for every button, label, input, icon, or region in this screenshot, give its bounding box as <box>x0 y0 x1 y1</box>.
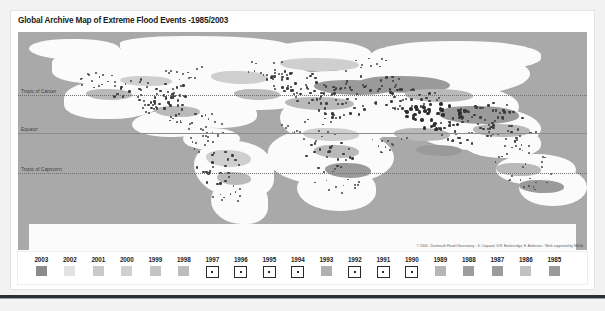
flood-event-dot <box>327 151 329 153</box>
flood-event-dot <box>224 165 226 167</box>
flood-event-dot <box>213 152 215 154</box>
legend-point-marker-icon <box>297 271 299 273</box>
flood-event-dot <box>341 103 343 105</box>
legend-swatch <box>348 266 361 278</box>
flood-event-dot <box>461 121 463 123</box>
flood-event-dot <box>521 117 523 119</box>
legend-item-1993[interactable]: 1993 <box>312 255 341 276</box>
flood-event-dot <box>363 108 365 110</box>
flood-event-dot <box>224 180 226 182</box>
flood-event-dot <box>311 99 313 101</box>
legend-item-1994[interactable]: 1994 <box>284 255 313 278</box>
legend-year-label: 2000 <box>120 255 134 264</box>
flood-event-dot <box>473 114 475 116</box>
flood-event-dot <box>466 139 468 141</box>
flood-event-dot <box>387 140 389 142</box>
flood-event-dot <box>237 200 239 202</box>
legend-item-2003[interactable]: 2003 <box>27 255 56 276</box>
world-flood-map[interactable]: Tropic of CancerEquatorTropic of Caprico… <box>18 32 587 250</box>
latitude-label-tropic-of-cancer: Tropic of Cancer <box>21 89 56 94</box>
legend-item-1990[interactable]: 1990 <box>398 255 427 278</box>
flood-event-dot <box>211 161 213 163</box>
flood-event-dot <box>201 66 203 68</box>
flood-event-dot <box>390 100 392 102</box>
flood-event-dot <box>308 102 310 104</box>
legend-year-label: 1995 <box>262 255 276 264</box>
legend-year-label: 1996 <box>234 255 248 264</box>
flood-event-dot <box>158 103 160 105</box>
legend-swatch <box>206 266 219 278</box>
legend-item-1991[interactable]: 1991 <box>369 255 398 278</box>
legend-item-1987[interactable]: 1987 <box>483 255 512 276</box>
flood-event-dot <box>212 141 214 143</box>
flood-event-dot <box>420 98 422 100</box>
legend-item-1992[interactable]: 1992 <box>341 255 370 278</box>
flood-event-dot <box>436 112 439 115</box>
flood-event-dot <box>430 118 433 121</box>
flood-event-dot <box>155 88 157 90</box>
flood-event-dot <box>334 168 336 170</box>
latitude-label-equator: Equator <box>21 127 38 132</box>
map-panel: Global Archive Map of Extreme Flood Even… <box>11 11 594 289</box>
flood-event-dot <box>239 188 241 190</box>
flood-event-dot <box>175 114 177 116</box>
legend-item-1988[interactable]: 1988 <box>455 255 484 276</box>
flood-event-dot <box>479 116 481 118</box>
legend-swatch <box>463 266 474 276</box>
legend-item-1995[interactable]: 1995 <box>255 255 284 278</box>
flood-event-dot <box>80 78 82 80</box>
flood-event-dot <box>138 99 140 101</box>
legend-year-label: 2003 <box>34 255 48 264</box>
flood-event-dot <box>458 137 460 139</box>
flood-event-dot <box>449 124 451 126</box>
flood-event-dot <box>150 107 152 109</box>
flood-event-dot <box>217 135 219 137</box>
flood-event-dot <box>325 102 327 104</box>
flood-event-dot <box>430 125 433 128</box>
flood-event-dot <box>234 159 236 161</box>
flood-event-dot <box>227 158 229 160</box>
flood-event-dot <box>303 138 305 140</box>
legend-item-1989[interactable]: 1989 <box>426 255 455 276</box>
flood-event-dot <box>410 98 412 100</box>
flood-event-dot <box>405 110 408 113</box>
flood-event-dot <box>290 89 292 91</box>
flood-event-dot <box>102 74 104 76</box>
legend-swatch <box>405 266 418 278</box>
flood-event-dot <box>286 77 288 79</box>
legend-item-1997[interactable]: 1997 <box>198 255 227 278</box>
flood-event-dot <box>349 156 351 158</box>
flood-extent-patch <box>234 89 280 100</box>
flood-event-dot <box>305 155 307 157</box>
legend-swatch <box>178 266 189 276</box>
legend-item-1996[interactable]: 1996 <box>227 255 256 278</box>
flood-event-dot <box>168 102 170 104</box>
legend-item-1999[interactable]: 1999 <box>141 255 170 276</box>
flood-event-dot <box>401 107 403 109</box>
flood-event-dot <box>147 104 149 106</box>
flood-event-dot <box>492 109 494 111</box>
flood-extent-patch <box>473 124 530 137</box>
legend-item-2002[interactable]: 2002 <box>56 255 85 276</box>
legend-point-marker-icon <box>268 271 270 273</box>
flood-event-dot <box>429 103 431 105</box>
flood-event-dot <box>360 75 362 77</box>
legend-item-1986[interactable]: 1986 <box>512 255 541 276</box>
legend-item-1998[interactable]: 1998 <box>170 255 199 276</box>
flood-event-dot <box>120 86 122 88</box>
flood-event-dot <box>211 113 213 115</box>
flood-event-dot <box>221 199 223 201</box>
legend-item-2001[interactable]: 2001 <box>84 255 113 276</box>
page-title: Global Archive Map of Extreme Flood Even… <box>18 16 228 25</box>
legend-swatch <box>64 266 75 276</box>
flood-event-dot <box>309 75 311 77</box>
legend-item-2000[interactable]: 2000 <box>113 255 142 276</box>
flood-event-dot <box>91 80 93 82</box>
flood-event-dot <box>278 73 280 75</box>
flood-event-dot <box>461 117 463 119</box>
flood-event-dot <box>307 88 309 90</box>
legend-swatch <box>435 266 446 276</box>
flood-event-dot <box>176 71 178 73</box>
legend-item-1985[interactable]: 1985 <box>540 255 569 276</box>
flood-event-dot <box>541 161 543 163</box>
